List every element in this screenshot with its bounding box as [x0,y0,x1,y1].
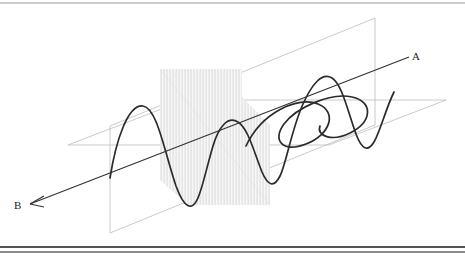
figure-container: A B [0,0,465,259]
axis-label-a: A [412,50,420,62]
polarization-diagram: A B [0,0,465,259]
polarizing-filter [160,69,270,205]
axis-label-b: B [14,199,21,211]
